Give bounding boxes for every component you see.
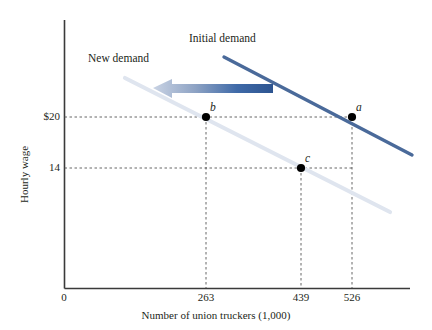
x-tick-label-263: 263 <box>186 291 226 303</box>
point-c-label: c <box>305 152 310 164</box>
chart-canvas: Hourly wage $20 14 0 263 439 526 Number … <box>0 0 432 330</box>
x-axis-title: Number of union truckers (1,000) <box>0 309 432 321</box>
point-b-label: b <box>210 101 216 113</box>
data-points <box>202 113 356 172</box>
y-axis-title: Hourly wage <box>18 146 30 203</box>
initial-demand-label: Initial demand <box>189 32 256 44</box>
point-c-marker <box>297 164 305 172</box>
point-a-label: a <box>356 101 362 113</box>
chart-svg <box>0 0 432 330</box>
guide-lines <box>65 117 353 288</box>
y-tick-label-14: 14 <box>18 161 60 173</box>
point-b-marker <box>202 113 210 121</box>
new-demand-label: New demand <box>88 52 149 64</box>
new-demand-curve <box>125 78 390 212</box>
y-tick-label-20: $20 <box>18 110 60 122</box>
x-tick-label-439: 439 <box>281 291 321 303</box>
shift-arrow-icon <box>153 79 273 98</box>
point-a-marker <box>348 113 356 121</box>
x-tick-label-0: 0 <box>54 291 74 303</box>
x-tick-label-526: 526 <box>332 291 372 303</box>
